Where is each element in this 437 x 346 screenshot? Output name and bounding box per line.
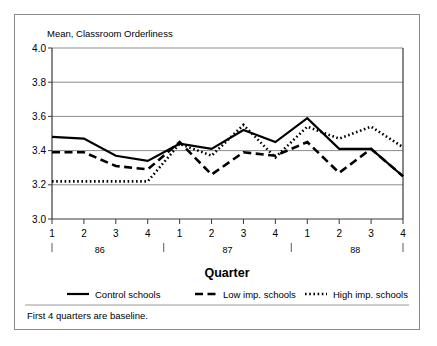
- x-tick-label: 4: [273, 228, 279, 239]
- series-line-0: [52, 118, 403, 176]
- legend-label-2: High imp. schools: [333, 289, 408, 300]
- y-tick-label: 3.2: [32, 179, 46, 190]
- legend-label-1: Low imp. schools: [223, 289, 296, 300]
- x-axis-title: Quarter: [204, 266, 249, 280]
- x-axis-tickmarks: [52, 219, 403, 224]
- x-tick-label: 3: [368, 228, 374, 239]
- x-tick-label: 3: [113, 228, 119, 239]
- x-tick-label: 2: [209, 228, 215, 239]
- x-tick-label: 1: [177, 228, 183, 239]
- x-tick-label: 1: [304, 228, 310, 239]
- line-chart: Mean, Classroom Orderliness 4.03.83.63.4…: [15, 15, 419, 329]
- figure-panel: Mean, Classroom Orderliness 4.03.83.63.4…: [14, 14, 420, 330]
- plot-title: Mean, Classroom Orderliness: [47, 28, 173, 39]
- y-tick-label: 3.4: [32, 145, 46, 156]
- series-line-1: [52, 142, 403, 176]
- series-line-2: [52, 125, 403, 181]
- x-tick-label: 4: [400, 228, 406, 239]
- x-tick-label: 3: [241, 228, 247, 239]
- x-tick-label: 1: [49, 228, 55, 239]
- y-tick-label: 3.8: [32, 77, 46, 88]
- footnote-text: First 4 quarters are baseline.: [27, 310, 148, 321]
- y-tick-label: 3.6: [32, 111, 46, 122]
- year-label: 87: [222, 245, 232, 255]
- x-axis-tick-labels: 123412341234: [49, 228, 406, 239]
- y-tick-label: 4.0: [32, 43, 46, 54]
- x-tick-label: 4: [145, 228, 151, 239]
- gridlines: [48, 48, 403, 219]
- year-label: 88: [350, 245, 360, 255]
- y-tick-label: 3.0: [32, 214, 46, 225]
- x-tick-label: 2: [336, 228, 342, 239]
- data-series-group: [52, 118, 403, 181]
- chart-legend: Control schoolsLow imp. schoolsHigh imp.…: [67, 289, 408, 300]
- legend-label-0: Control schools: [95, 289, 161, 300]
- year-label: 86: [95, 245, 105, 255]
- x-tick-label: 2: [81, 228, 87, 239]
- year-group-labels: 868788: [95, 245, 360, 255]
- y-axis-tick-labels: 4.03.83.63.43.23.0: [32, 43, 46, 225]
